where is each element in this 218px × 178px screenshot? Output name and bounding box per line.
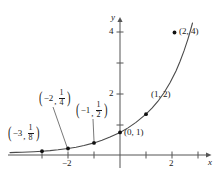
x-tick-label-neg2: −2 — [62, 159, 72, 168]
y-tick-label-4: 4 — [109, 27, 114, 36]
y-axis-label: y — [111, 13, 115, 22]
fraction-denominator: 8 — [28, 134, 34, 142]
data-point — [66, 147, 70, 151]
x-axis-label: x — [208, 158, 212, 167]
paren-open: ( — [39, 91, 43, 104]
point-label-comma: , — [91, 109, 94, 118]
fraction-numerator: 1 — [28, 124, 34, 132]
point-label-two: (2, 4) — [179, 27, 199, 36]
fraction-denominator: 2 — [96, 111, 102, 119]
paren-close: ) — [104, 103, 108, 116]
exponential-function-graph: y x 4 2 −2 2 ( −3 , 1 8 ) ( −2 , 1 4 — [0, 0, 218, 178]
point-label-x: −3 — [13, 129, 24, 138]
fraction-numerator: 1 — [96, 101, 102, 109]
fraction-numerator: 1 — [59, 89, 65, 97]
leader-line-neg2 — [53, 107, 67, 147]
x-tick-label-2: 2 — [169, 159, 174, 168]
point-label-one: (1, 2) — [151, 90, 171, 99]
point-label-comma: , — [23, 132, 26, 141]
leader-line-neg1 — [93, 119, 94, 141]
paren-open: ( — [8, 126, 12, 139]
point-label-x: −1 — [81, 106, 92, 115]
point-label-neg2: ( −2 , 1 4 ) — [38, 89, 71, 107]
data-point — [92, 141, 96, 145]
data-point — [144, 112, 148, 116]
fraction: 1 8 — [27, 124, 35, 142]
fraction-denominator: 4 — [59, 99, 65, 107]
data-point — [40, 149, 44, 153]
point-label-origin: (0, 1) — [124, 128, 144, 137]
point-label-neg1: ( −1 , 1 2 ) — [75, 101, 108, 119]
fraction: 1 4 — [58, 89, 66, 107]
fraction: 1 2 — [95, 101, 103, 119]
y-axis-arrowhead — [117, 17, 122, 22]
y-tick-label-2: 2 — [109, 89, 114, 98]
paren-open: ( — [76, 103, 80, 116]
point-label-x: −2 — [44, 94, 55, 103]
data-point — [173, 31, 177, 35]
point-label-comma: , — [54, 97, 57, 106]
point-label-neg3: ( −3 , 1 8 ) — [7, 124, 40, 142]
data-point — [118, 131, 122, 135]
paren-close: ) — [67, 91, 71, 104]
paren-close: ) — [36, 126, 40, 139]
